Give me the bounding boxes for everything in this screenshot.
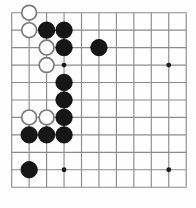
goban-grid[interactable] — [0, 0, 196, 208]
white-stone-c1-r1[interactable] — [22, 23, 37, 38]
black-stone-c3-r6[interactable] — [56, 109, 72, 125]
white-stone-c2-r6[interactable] — [39, 110, 54, 125]
black-stone-c2-r1[interactable] — [38, 22, 54, 38]
hoshi-point-c3-r3 — [62, 63, 67, 68]
black-stone-c2-r7[interactable] — [38, 127, 54, 143]
black-stone-c3-r7[interactable] — [56, 127, 72, 143]
black-stone-c3-r2[interactable] — [56, 39, 72, 55]
grid-lines — [12, 13, 187, 188]
hoshi-point-c9-r3 — [166, 63, 171, 68]
black-stone-c1-r9[interactable] — [21, 162, 37, 178]
hoshi-point-c3-r9 — [62, 167, 67, 172]
black-stone-c5-r2[interactable] — [91, 39, 107, 55]
white-stone-c1-r6[interactable] — [22, 110, 37, 125]
white-stone-c2-r3[interactable] — [39, 58, 54, 73]
white-stone-c2-r2[interactable] — [39, 40, 54, 55]
hoshi-point-c9-r9 — [166, 167, 171, 172]
black-stone-c3-r1[interactable] — [56, 22, 72, 38]
black-stone-c3-r5[interactable] — [56, 92, 72, 108]
go-board-diagram — [0, 0, 196, 208]
black-stone-c3-r4[interactable] — [56, 74, 72, 90]
black-stone-c1-r7[interactable] — [21, 127, 37, 143]
white-stone-c1-r0[interactable] — [22, 5, 37, 20]
